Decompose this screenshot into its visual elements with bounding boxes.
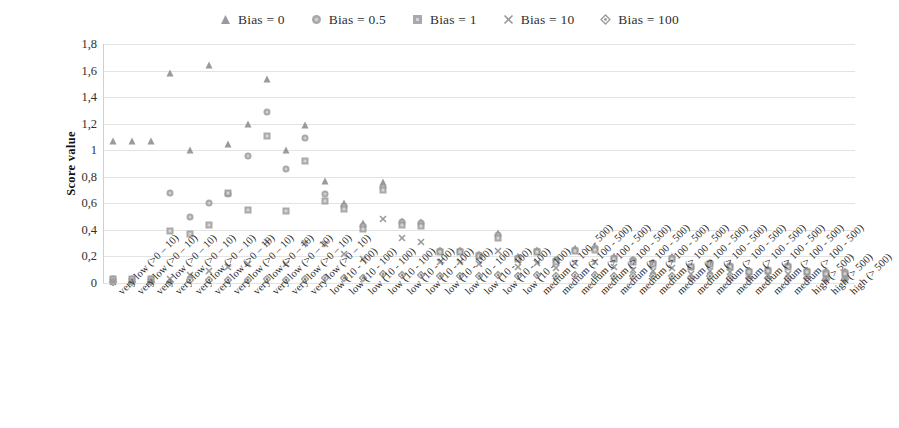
grid-line [103,177,855,178]
data-point-square [243,205,252,214]
triangle-icon [220,14,232,26]
data-point-square [205,220,214,229]
data-point-square [262,131,271,140]
y-axis-line [103,44,104,283]
data-point-cross [378,215,387,224]
grid-line [103,44,855,45]
data-point-circle [262,107,271,116]
data-point-triangle [282,146,291,155]
data-point-square [301,156,310,165]
data-point-square [340,204,349,213]
legend-label: Bias = 1 [430,12,477,28]
data-point-circle [205,199,214,208]
y-axis-tick-label: 1,6 [81,64,97,77]
grid-line [103,203,855,204]
grid-line [103,97,855,98]
data-point-square [282,207,291,216]
legend-label: Bias = 100 [618,12,679,28]
y-axis-tick-label: 1,2 [81,117,97,130]
data-point-square [494,233,503,242]
legend-item-bias-0-5[interactable]: Bias = 0.5 [311,12,386,28]
data-point-triangle [185,146,194,155]
chart-legend: Bias = 0Bias = 0.5Bias = 1Bias = 10Bias … [0,12,899,28]
y-axis-title: Score value [64,113,79,213]
y-axis-tick-label: 1 [91,144,97,157]
legend-label: Bias = 0 [238,12,285,28]
grid-line [103,71,855,72]
y-axis-tick-label: 1,4 [81,91,97,104]
cross-icon [503,14,515,26]
data-point-diamond [108,277,117,286]
data-point-cross [417,237,426,246]
data-point-square [378,186,387,195]
y-axis-tick-label: 1,8 [81,38,97,51]
data-point-triangle [127,136,136,145]
data-point-square [397,220,406,229]
data-point-circle [166,188,175,197]
scatter-chart: Bias = 0Bias = 0.5Bias = 1Bias = 10Bias … [0,0,899,428]
data-point-triangle [301,120,310,129]
diamond-icon [600,14,612,26]
data-point-triangle [224,139,233,148]
square-icon [412,14,424,26]
grid-line [103,150,855,151]
y-axis-tick-label: 0,8 [81,171,97,184]
data-point-cross [397,233,406,242]
y-axis-tick-label: 0,4 [81,224,97,237]
legend-label: Bias = 0.5 [329,12,386,28]
data-point-triangle [320,176,329,185]
y-axis-tick-label: 0,6 [81,197,97,210]
data-point-square [359,224,368,233]
legend-label: Bias = 10 [521,12,575,28]
data-point-square [417,221,426,230]
legend-item-bias-1[interactable]: Bias = 1 [412,12,477,28]
data-point-triangle [147,136,156,145]
data-point-triangle [243,119,252,128]
grid-line [103,124,855,125]
circle-icon [311,14,323,26]
y-axis-tick-label: 0 [91,277,97,290]
x-axis-labels: very low (>0 – 10)very low (>0 – 10)very… [103,289,855,409]
data-point-triangle [262,74,271,83]
y-axis-tick-label: 0,2 [81,250,97,263]
data-point-triangle [108,136,117,145]
data-point-triangle [205,61,214,70]
data-point-circle [185,212,194,221]
legend-item-bias-0[interactable]: Bias = 0 [220,12,285,28]
data-point-circle [243,151,252,160]
legend-item-bias-100[interactable]: Bias = 100 [600,12,679,28]
data-point-circle [282,164,291,173]
data-point-square [320,196,329,205]
legend-item-bias-10[interactable]: Bias = 10 [503,12,575,28]
data-point-triangle [166,69,175,78]
data-point-circle [301,134,310,143]
data-point-square [224,188,233,197]
